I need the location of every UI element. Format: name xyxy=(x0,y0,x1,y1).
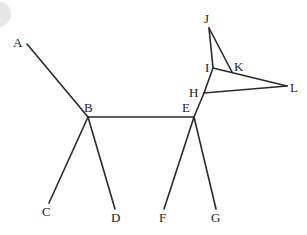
edge-i-l xyxy=(213,68,287,86)
edge-b-c xyxy=(49,117,88,203)
graph-diagram: ABCDEFGHIJKL xyxy=(0,0,307,235)
node-label-a: A xyxy=(13,35,23,50)
edges-group xyxy=(27,28,287,209)
node-label-b: B xyxy=(84,100,93,115)
node-label-k: K xyxy=(234,59,244,74)
edge-e-g xyxy=(194,117,216,209)
node-label-e: E xyxy=(182,100,190,115)
node-label-f: F xyxy=(159,210,166,225)
labels-group: ABCDEFGHIJKL xyxy=(13,11,298,225)
node-label-d: D xyxy=(111,210,120,225)
node-label-c: C xyxy=(42,204,51,219)
node-label-h: H xyxy=(189,85,198,100)
edge-h-l xyxy=(204,86,287,93)
node-label-j: J xyxy=(204,11,209,26)
corner-artifact xyxy=(0,1,11,27)
edge-a-b xyxy=(27,44,88,117)
node-label-l: L xyxy=(290,80,298,95)
edge-e-f xyxy=(164,117,194,209)
node-label-i: I xyxy=(205,60,209,75)
node-label-g: G xyxy=(211,210,220,225)
edge-b-d xyxy=(88,117,115,209)
